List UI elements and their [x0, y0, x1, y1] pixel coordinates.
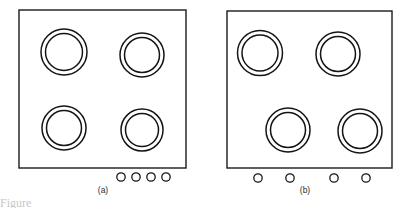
- burner-b-1: [238, 31, 283, 76]
- panel-a: (a): [19, 10, 186, 195]
- figure-caption-text: Figure: [0, 198, 160, 208]
- burner-bottom-right-inner-ring: [343, 114, 378, 149]
- stovetop-comparison-diagram: (a)(b): [0, 0, 411, 208]
- panel-b: (b): [227, 11, 392, 195]
- burner-a-1: [41, 29, 87, 75]
- control-knob-1-b: [254, 174, 262, 182]
- figure-container: (a)(b) Figure: [0, 0, 411, 208]
- burner-bottom-left-inner-ring: [271, 113, 306, 148]
- figure-caption-clipped: Figure: [0, 198, 160, 208]
- control-knob-4-a: [162, 173, 170, 181]
- control-knob-4-b: [362, 174, 370, 182]
- cooktop-outline-a: [19, 10, 186, 168]
- burner-bottom-left-inner-ring: [47, 111, 82, 146]
- burner-top-right-inner-ring: [125, 38, 160, 73]
- burner-a-2: [120, 33, 164, 77]
- burner-b-4: [338, 109, 382, 153]
- burner-top-left-inner-ring: [46, 34, 83, 71]
- control-knob-3-a: [147, 173, 155, 181]
- control-knob-1-a: [117, 173, 125, 181]
- panel-label-b: (b): [300, 185, 311, 195]
- burner-top-right-inner-ring: [321, 37, 356, 72]
- control-knob-2-a: [132, 173, 140, 181]
- burner-b-3: [266, 108, 310, 152]
- burner-a-4: [121, 109, 163, 151]
- panel-label-a: (a): [98, 185, 109, 195]
- control-knob-2-b: [286, 174, 294, 182]
- burner-b-2: [316, 32, 360, 76]
- burner-top-left-inner-ring: [242, 35, 278, 71]
- control-knob-3-b: [330, 174, 338, 182]
- burner-bottom-right-inner-ring: [126, 114, 159, 147]
- burner-a-3: [42, 106, 86, 150]
